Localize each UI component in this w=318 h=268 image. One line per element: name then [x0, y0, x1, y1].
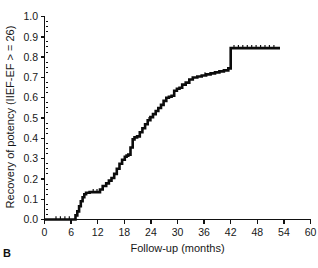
x-tick-label: 36 — [198, 226, 210, 238]
x-tick-label: 60 — [305, 226, 317, 238]
km-plot-svg: 0.0 0.1 0.2 0.3 0.4 0.5 0.6 0.7 0.8 0.9 … — [0, 0, 318, 268]
plot-background — [0, 0, 318, 268]
y-tick-label: 0.3 — [23, 152, 38, 164]
y-tick-label: 0.4 — [23, 132, 38, 144]
figure-panel-b: 0.0 0.1 0.2 0.3 0.4 0.5 0.6 0.7 0.8 0.9 … — [0, 0, 318, 268]
y-axis-tick-labels: 0.0 0.1 0.2 0.3 0.4 0.5 0.6 0.7 0.8 0.9 … — [23, 10, 38, 225]
x-tick-label: 6 — [68, 226, 74, 238]
x-tick-label: 18 — [118, 226, 130, 238]
x-axis-title: Follow-up (months) — [130, 242, 224, 254]
x-tick-label: 0 — [42, 226, 48, 238]
y-tick-label: 0.0 — [23, 213, 38, 225]
y-tick-label: 0.9 — [23, 31, 38, 43]
y-tick-label: 0.7 — [23, 71, 38, 83]
x-tick-label: 30 — [172, 226, 184, 238]
panel-label-b: B — [3, 247, 11, 259]
x-tick-label: 12 — [92, 226, 104, 238]
y-tick-label: 0.5 — [23, 112, 38, 124]
x-tick-label: 24 — [145, 226, 157, 238]
x-tick-label: 48 — [251, 226, 263, 238]
y-tick-label: 0.6 — [23, 91, 38, 103]
y-tick-label: 0.2 — [23, 173, 38, 185]
x-tick-label: 54 — [278, 226, 290, 238]
y-tick-label: 0.1 — [23, 193, 38, 205]
y-tick-label: 0.8 — [23, 51, 38, 63]
x-tick-label: 42 — [225, 226, 237, 238]
y-axis-title: Recovery of potency (IIEF-EF > = 26) — [4, 26, 16, 209]
y-tick-label: 1.0 — [23, 10, 38, 22]
